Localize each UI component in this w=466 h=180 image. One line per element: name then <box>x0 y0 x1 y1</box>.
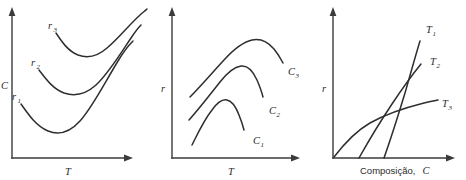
panel-1-curve-r2 <box>39 25 141 95</box>
panel-1-y-axis-arrow <box>9 7 16 16</box>
panel-2-curve-c2 <box>189 66 263 120</box>
panel-2: C 1 C 2 C 3 r T <box>161 7 300 177</box>
panel-3: T 1 T 2 T 3 r Composição, C <box>322 7 455 177</box>
panel-1-curve-label-r3-sub: 3 <box>53 26 58 34</box>
panel-3-x-axis-label: Composição, C <box>360 160 430 177</box>
panel-3-curve-label-t1-sub: 1 <box>433 30 437 38</box>
panel-1-curve-label-r1: r <box>12 91 17 102</box>
panel-3-y-axis-label: r <box>322 83 327 94</box>
panel-2-curve-c3 <box>190 39 283 97</box>
panel-1-curve-label-r2-sub: 2 <box>37 63 41 71</box>
panel-2-curve-label-c2-sub: 2 <box>277 111 281 119</box>
panel-1-y-axis-label: C <box>1 80 9 91</box>
panel-3-x-axis-label-text: Composição, <box>360 165 415 176</box>
panel-3-curve-t1 <box>384 41 420 158</box>
three-panel-kinetics-figure: r 1 r 2 r 3 C T C 1 C 2 C 3 r T <box>0 0 466 180</box>
panel-1-curve-label-r1-sub: 1 <box>18 97 22 105</box>
panel-3-x-axis-label-symbol: C <box>422 165 430 176</box>
panel-3-x-axis-arrow <box>446 155 455 162</box>
panel-1-x-axis-arrow <box>124 155 133 162</box>
panel-1-curve-label-r2: r <box>31 57 36 68</box>
panel-1-x-axis-label: T <box>65 166 72 177</box>
panel-3-curve-t2 <box>359 64 421 158</box>
panel-3-curve-label-t2-sub: 2 <box>437 62 441 70</box>
panel-2-x-axis-arrow <box>291 155 300 162</box>
panel-3-curve-label-t3-sub: 3 <box>448 104 453 112</box>
panel-3-y-axis-arrow <box>330 7 337 16</box>
panel-2-y-axis-arrow <box>169 7 176 16</box>
panel-1: r 1 r 2 r 3 C T <box>1 7 147 177</box>
panel-2-y-axis-label: r <box>161 83 166 94</box>
panel-1-curve-r3 <box>56 9 147 57</box>
panel-1-curve-label-r3: r <box>48 20 53 31</box>
panel-3-curve-t3 <box>334 100 438 157</box>
panel-2-x-axis-label: T <box>228 166 235 177</box>
panel-2-curve-label-c3-sub: 3 <box>295 72 300 80</box>
panel-2-curve-label-c1-sub: 1 <box>261 141 265 149</box>
